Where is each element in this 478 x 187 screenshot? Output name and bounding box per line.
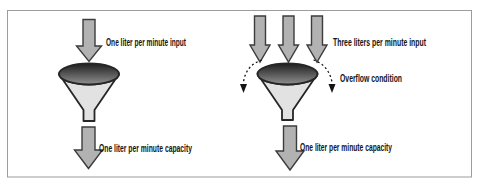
input-label: Three liters per minute input bbox=[333, 37, 426, 48]
funnel-rim bbox=[59, 64, 119, 85]
overflow-arrowhead-right bbox=[329, 84, 336, 93]
overflow-arrowhead-left bbox=[240, 84, 247, 93]
funnel-icon bbox=[258, 64, 318, 121]
down-arrow-icon bbox=[279, 16, 299, 62]
funnel-rim bbox=[258, 64, 318, 85]
input-label: One liter per minute input bbox=[106, 37, 186, 48]
down-arrow-icon bbox=[77, 20, 102, 62]
down-arrow-icon bbox=[250, 16, 270, 62]
figure-canvas: One liter per minute input One liter per… bbox=[0, 0, 478, 187]
funnel-icon bbox=[59, 64, 119, 122]
left-panel: One liter per minute input One liter per… bbox=[59, 20, 192, 169]
right-panel: Three liters per minute input Overflow c… bbox=[240, 16, 426, 170]
funnel-diagram: One liter per minute input One liter per… bbox=[0, 0, 478, 187]
overflow-label: Overflow condition bbox=[340, 73, 402, 84]
down-arrow-icon bbox=[307, 16, 327, 62]
capacity-label: One liter per minute capacity bbox=[300, 142, 392, 153]
capacity-label: One liter per minute capacity bbox=[99, 143, 192, 154]
